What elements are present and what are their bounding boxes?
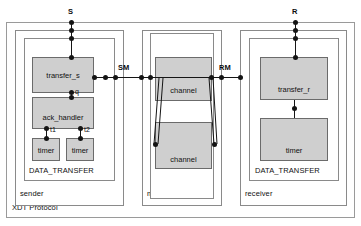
diagram-canvas: XDT Protocol sender DATA_TRANSFER transf… bbox=[0, 0, 361, 226]
signal-dot-q-bottom[interactable] bbox=[69, 95, 74, 100]
channel-dot-lower-left[interactable] bbox=[153, 142, 158, 147]
block-sender-timer-2-label: timer bbox=[66, 146, 94, 155]
port-dot-s-datatrans[interactable] bbox=[69, 36, 74, 41]
block-transfer-s-label: transfer_s bbox=[32, 71, 94, 80]
port-dot-s-sender[interactable] bbox=[69, 28, 74, 33]
port-label-s: S bbox=[68, 7, 73, 16]
channel-dot-lower-right[interactable] bbox=[212, 142, 217, 147]
signal-dot-t2-bottom[interactable] bbox=[78, 136, 83, 141]
port-dot-sm-medium[interactable] bbox=[139, 75, 144, 80]
signal-label-t2: t2 bbox=[84, 126, 90, 133]
port-dot-r-transfer-r[interactable] bbox=[293, 55, 298, 60]
block-channel-backward-label: channel bbox=[155, 155, 212, 164]
block-sender-timer-1-label: timer bbox=[32, 146, 60, 155]
signal-dot-t1-top[interactable] bbox=[44, 126, 49, 131]
port-label-rm: RM bbox=[219, 63, 231, 72]
port-dot-rm-receiver[interactable] bbox=[238, 75, 243, 80]
signal-dot-t1-bottom[interactable] bbox=[44, 136, 49, 141]
port-dot-sm-medium-in[interactable] bbox=[148, 75, 153, 80]
receiver-data-transfer-label: DATA_TRANSFER bbox=[255, 166, 320, 175]
port-dot-sm-transfer-s[interactable] bbox=[92, 75, 97, 80]
signal-label-q: q bbox=[75, 88, 79, 95]
port-label-sm: SM bbox=[118, 63, 129, 72]
port-dot-r-outer[interactable] bbox=[293, 20, 298, 25]
port-dot-sm-datatrans[interactable] bbox=[103, 75, 108, 80]
component-receiver-label: receiver bbox=[245, 189, 272, 198]
port-dot-receiver-timer[interactable] bbox=[292, 106, 297, 111]
port-dot-r-datatrans[interactable] bbox=[293, 36, 298, 41]
signal-dot-t2-top[interactable] bbox=[78, 126, 83, 131]
block-receiver-timer-label: timer bbox=[260, 146, 328, 155]
port-dot-rm-medium[interactable] bbox=[219, 75, 224, 80]
port-dot-s-transfer-s[interactable] bbox=[69, 55, 74, 60]
signal-label-t1: t1 bbox=[50, 126, 56, 133]
block-ack-handler-label: ack_handler bbox=[32, 113, 94, 122]
port-dot-sm-sender[interactable] bbox=[113, 75, 118, 80]
port-label-r: R bbox=[292, 7, 297, 16]
component-sender-label: sender bbox=[20, 189, 44, 198]
block-transfer-r-label: transfer_r bbox=[260, 85, 328, 94]
port-dot-s-outer[interactable] bbox=[69, 20, 74, 25]
sender-data-transfer-label: DATA_TRANSFER bbox=[29, 166, 94, 175]
port-dot-rm-medium-in[interactable] bbox=[209, 75, 214, 80]
block-channel-forward-label: channel bbox=[155, 86, 212, 95]
port-dot-r-receiver[interactable] bbox=[293, 28, 298, 33]
